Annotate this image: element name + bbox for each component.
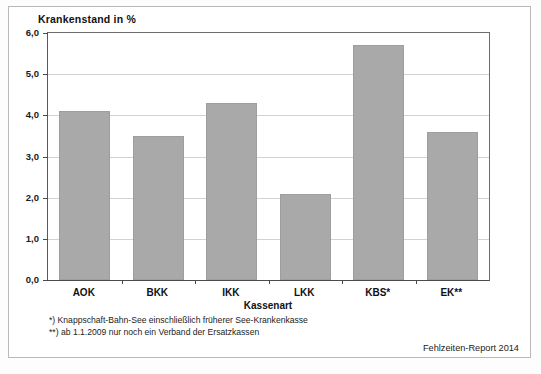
x-axis-tick — [342, 280, 343, 284]
bar-aok — [59, 111, 110, 280]
y-axis-label: 5,0 — [26, 68, 39, 79]
y-axis-label: 0,0 — [26, 274, 39, 285]
y-axis-label: 6,0 — [26, 27, 39, 38]
y-axis-tick — [43, 280, 48, 281]
x-axis-tick — [269, 280, 270, 284]
bar-bkk — [133, 136, 184, 280]
x-axis-label-ikk: IKK — [222, 287, 239, 298]
bar-lkk — [280, 194, 331, 280]
figure-container: Krankenstand in % 0,01,02,03,04,05,06,0 … — [0, 0, 541, 374]
x-axis-label-kbs: KBS* — [365, 287, 390, 298]
y-axis-label: 4,0 — [26, 109, 39, 120]
bar-kbs — [353, 45, 404, 280]
x-axis-title: Kassenart — [244, 300, 292, 311]
y-axis-label: 2,0 — [26, 191, 39, 202]
plot-area — [47, 32, 490, 281]
footnote-line-2: **) ab 1.1.2009 nur noch ein Verband der… — [49, 327, 308, 339]
source-note: Fehlzeiten-Report 2014 — [423, 343, 519, 353]
x-axis-tick — [416, 280, 417, 284]
x-axis-label-lkk: LKK — [294, 287, 315, 298]
bar-ek — [427, 132, 478, 280]
bar-ikk — [206, 103, 257, 280]
y-axis-label: 1,0 — [26, 232, 39, 243]
y-axis-label: 3,0 — [26, 150, 39, 161]
x-axis-label-ek: EK** — [440, 287, 462, 298]
x-axis-label-aok: AOK — [73, 287, 95, 298]
chart-title: Krankenstand in % — [38, 13, 136, 25]
x-axis-tick — [122, 280, 123, 284]
x-axis-tick — [195, 280, 196, 284]
bars-group — [48, 33, 489, 280]
footnote-line-1: *) Knappschaft-Bahn-See einschließlich f… — [49, 315, 308, 327]
x-axis-label-bkk: BKK — [146, 287, 168, 298]
footnotes: *) Knappschaft-Bahn-See einschließlich f… — [49, 315, 308, 338]
